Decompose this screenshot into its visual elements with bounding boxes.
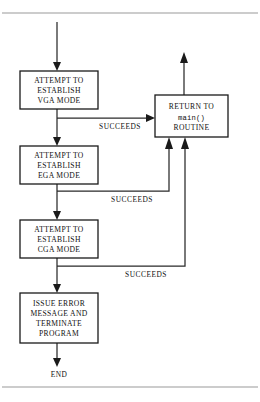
ega-succeeds-label: SUCCEEDS [111,195,153,204]
vga-fail-to-ega-arrow [53,109,61,146]
ega-fail-to-cga-arrow [53,184,61,220]
issue-error-line3: TERMINATE [36,319,82,328]
flowchart-canvas: ATTEMPT TO ESTABLISH VGA MODE ATTEMPT TO… [0,0,260,402]
return-to-main-line3: ROUTINE [174,123,210,132]
attempt-vga-line1: ATTEMPT TO [34,76,83,85]
cga-fail-to-error-arrow [53,258,61,293]
issue-error-line2: MESSAGE AND [30,309,87,318]
attempt-ega-box: ATTEMPT TO ESTABLISH EGA MODE [20,146,98,184]
issue-error-line4: PROGRAM [39,329,79,338]
cga-succeeds-label: SUCCEEDS [125,270,167,279]
return-to-main-line2: main() [178,114,205,122]
attempt-ega-line1: ATTEMPT TO [34,151,83,160]
entry-arrow [53,22,61,71]
attempt-cga-line3: CGA MODE [38,245,81,254]
attempt-vga-line2: ESTABLISH [37,86,81,95]
attempt-vga-line3: VGA MODE [37,96,80,105]
issue-error-line1: ISSUE ERROR [33,299,86,308]
vga-succeeds-branch [57,114,155,122]
attempt-ega-line2: ESTABLISH [37,161,81,170]
attempt-cga-line2: ESTABLISH [37,235,81,244]
issue-error-box: ISSUE ERROR MESSAGE AND TERMINATE PROGRA… [20,293,98,343]
return-to-main-box: RETURN TO main() ROUTINE [155,95,228,137]
end-terminal-label: END [51,370,68,379]
vga-succeeds-label: SUCCEEDS [99,122,141,131]
attempt-ega-line3: EGA MODE [38,171,80,180]
flowchart-figure: ATTEMPT TO ESTABLISH VGA MODE ATTEMPT TO… [0,0,260,402]
attempt-cga-box: ATTEMPT TO ESTABLISH CGA MODE [20,220,98,258]
error-to-end-arrow [53,343,61,367]
attempt-cga-line1: ATTEMPT TO [34,225,83,234]
return-to-main-line1: RETURN TO [169,102,214,111]
attempt-vga-box: ATTEMPT TO ESTABLISH VGA MODE [20,71,98,109]
return-exit-arrow [180,52,188,95]
